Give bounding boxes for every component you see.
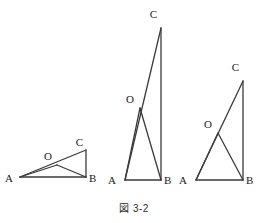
triangle-2-group: A B C O bbox=[108, 8, 171, 186]
triangle-1-label-o: O bbox=[44, 150, 52, 162]
triangle-1-group: A B C O bbox=[5, 136, 96, 184]
triangle-2-label-c: C bbox=[150, 8, 157, 20]
triangle-1-segment-ao bbox=[20, 165, 57, 177]
triangle-1-label-c: C bbox=[76, 136, 83, 148]
triangle-2-label-a: A bbox=[108, 174, 116, 186]
triangle-3-label-c: C bbox=[232, 61, 239, 73]
triangle-3-group: A B C O bbox=[179, 61, 253, 186]
geometry-figure: A B C O A B C O A B C O bbox=[0, 0, 268, 223]
triangle-1-label-b: B bbox=[89, 172, 96, 184]
triangle-2-segment-ao bbox=[125, 108, 140, 180]
triangle-3-label-a: A bbox=[179, 174, 187, 186]
triangle-2-segment-ob bbox=[140, 108, 161, 180]
triangle-1-label-a: A bbox=[5, 172, 13, 184]
triangle-2-label-o: O bbox=[126, 93, 134, 105]
triangle-3-label-o: O bbox=[204, 118, 212, 130]
triangle-1-segment-ob bbox=[57, 165, 86, 177]
triangle-3-label-b: B bbox=[246, 174, 253, 186]
triangle-2-label-b: B bbox=[164, 174, 171, 186]
triangle-3-segment-ob bbox=[218, 133, 243, 180]
figure-caption: 図 3-2 bbox=[0, 200, 268, 215]
triangle-3-segment-ao bbox=[196, 133, 218, 180]
